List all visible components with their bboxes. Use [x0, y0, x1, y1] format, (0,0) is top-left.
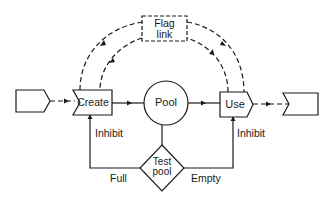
source-node	[16, 90, 50, 112]
inner-arc-flag-to-create	[100, 38, 142, 90]
pool-label: Pool	[144, 97, 188, 108]
inhibit-create-label: Inhibit	[95, 128, 123, 139]
outer-arc-create-to-flag	[80, 22, 142, 90]
empty-label: Empty	[191, 173, 221, 184]
inner-arc-use-to-flag	[187, 38, 228, 92]
test-pool-label-line2: pool	[146, 167, 178, 177]
flag-link-label-line1: Flag	[142, 18, 187, 29]
full-label: Full	[110, 173, 127, 184]
edge-empty-inhibit-use	[184, 117, 233, 168]
arrowhead-icon	[266, 102, 271, 107]
arrowhead-icon	[100, 40, 106, 46]
arrowhead-icon	[64, 99, 69, 104]
arrowhead-icon	[109, 58, 115, 63]
create-label: Create	[73, 97, 113, 108]
flag-link-label-line2: link	[142, 29, 187, 40]
arrowhead-icon	[209, 49, 214, 55]
inhibit-use-label: Inhibit	[237, 128, 265, 139]
edge-full-inhibit-create	[90, 115, 140, 168]
use-label: Use	[220, 99, 250, 110]
arrowhead-icon	[127, 101, 132, 106]
outer-arc-flag-to-use	[187, 22, 244, 92]
arrowhead-icon	[201, 101, 206, 106]
